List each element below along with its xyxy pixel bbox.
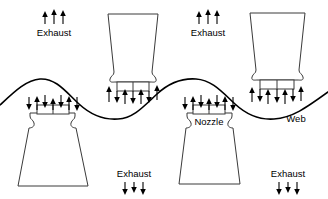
exhaust-bottom-mid: Exhaust <box>117 168 152 195</box>
arrow-up <box>60 10 66 24</box>
arrow-up <box>282 89 288 104</box>
arrow-down <box>122 182 128 195</box>
nozzle-web-dryer-diagram: Exhaust Exhaust Exhaust Exhaust Nozzle W… <box>0 0 328 199</box>
arrow-down <box>257 89 263 102</box>
arrow-down <box>114 91 120 103</box>
arrow-down <box>285 182 291 193</box>
exhaust-label-top-right: Exhaust <box>191 27 226 38</box>
arrow-up <box>51 9 57 24</box>
exhaust-label-top-left: Exhaust <box>37 27 72 38</box>
arrow-up <box>196 11 202 24</box>
arrow-down <box>274 89 280 103</box>
arrow-down <box>276 182 282 195</box>
nozzle-label: Nozzle <box>194 116 223 127</box>
exhaust-top-right: Exhaust <box>191 9 226 38</box>
exhaust-top-left: Exhaust <box>37 9 72 38</box>
nozzle-top-right-body <box>250 13 305 80</box>
arrow-down <box>140 182 146 195</box>
exhaust-bottom-right: Exhaust <box>271 168 306 195</box>
nozzle-bottom-left <box>18 105 88 186</box>
arrow-up <box>205 9 211 24</box>
nozzle-top-right <box>250 13 305 89</box>
nozzle-top-mid <box>108 14 158 91</box>
arrow-up <box>249 87 255 102</box>
nozzle-bottom-left-body <box>18 113 88 186</box>
arrow-up <box>106 86 112 102</box>
arrow-down <box>290 89 296 102</box>
arrow-up <box>42 11 48 24</box>
exhaust-label-bottom-mid: Exhaust <box>117 168 152 179</box>
arrow-up <box>214 10 220 24</box>
arrow-up <box>265 89 271 104</box>
arrow-down <box>182 97 188 110</box>
nozzle-top-mid-body <box>108 14 158 82</box>
exhaust-label-bottom-right: Exhaust <box>271 168 306 179</box>
arrow-up <box>298 86 304 101</box>
arrow-down <box>294 182 300 195</box>
arrow-down <box>146 91 152 103</box>
web-label: Web <box>286 113 305 124</box>
diagram-canvas: Exhaust Exhaust Exhaust Exhaust Nozzle W… <box>0 0 328 199</box>
arrow-down <box>130 91 136 104</box>
arrow-down <box>131 182 137 193</box>
arrow-down <box>26 97 32 110</box>
